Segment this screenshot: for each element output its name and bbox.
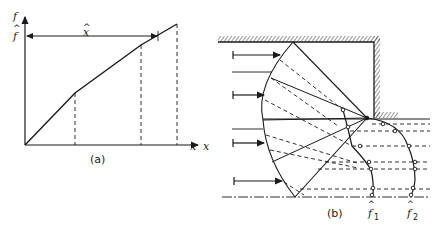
fan-ray-3 xyxy=(272,118,367,162)
f2-curve xyxy=(367,118,415,195)
f2-points xyxy=(381,122,417,197)
y-axis-label: f xyxy=(12,10,19,23)
f2-subscript: 2 xyxy=(413,213,418,222)
fan-upper-boundary xyxy=(293,42,367,118)
right-wall-hatch xyxy=(374,36,380,118)
panel-b xyxy=(218,36,430,197)
panel-a-caption: (a) xyxy=(90,153,105,166)
f1-subscript: 1 xyxy=(374,213,379,222)
diagram-svg: f ^ f ^ x x (a) xyxy=(0,0,442,233)
xhat-label: x xyxy=(83,26,90,39)
panel-b-caption: (b) xyxy=(327,207,343,220)
panel-b-x-label: x xyxy=(203,140,210,153)
top-wall-hatch xyxy=(218,36,380,42)
x-axis-label: x xyxy=(190,140,197,153)
pivot-point xyxy=(365,116,369,120)
step-hatch xyxy=(374,112,398,118)
f1-curve xyxy=(343,110,373,195)
piecewise-curve xyxy=(25,24,177,145)
panel-a xyxy=(25,17,198,145)
diagram-figure: f ^ f ^ x x (a) xyxy=(0,0,442,233)
